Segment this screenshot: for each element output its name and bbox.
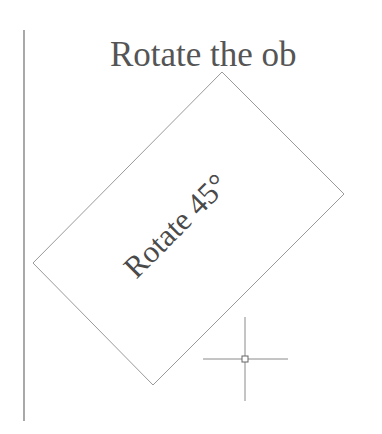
crosshair-cursor-icon [203, 317, 288, 401]
rotated-text-label[interactable]: Rotate 45° [117, 167, 235, 285]
drawing-layer: Rotate 45° [0, 0, 382, 434]
drawing-canvas[interactable]: Rotate the ob Rotate 45° [0, 0, 382, 434]
pickbox-icon [242, 356, 248, 362]
